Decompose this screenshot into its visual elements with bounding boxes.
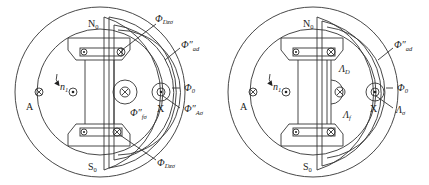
label-phase-x-left: X bbox=[157, 103, 165, 114]
label-phi-f-sigma: Φ″fσ bbox=[130, 107, 148, 120]
label-lambda-sigma: Λσ bbox=[395, 104, 406, 116]
rotor-pole-top bbox=[68, 38, 130, 60]
label-phi-dz-sigma-top: ΦDzσ bbox=[155, 13, 174, 25]
label-south-pole-right: S0 bbox=[303, 161, 312, 173]
label-phi-ad-right: Φ″ad bbox=[394, 39, 413, 52]
label-north-pole-left: N0 bbox=[88, 18, 98, 30]
label-lambda-f: Λf bbox=[342, 109, 352, 121]
label-north-pole-right: N0 bbox=[303, 18, 313, 30]
label-phi-a-sigma: Φ″Aσ bbox=[184, 103, 204, 116]
label-phi-0-left: Φ0 bbox=[184, 82, 196, 94]
right-machine bbox=[228, 7, 398, 177]
label-phase-a-right: A bbox=[240, 101, 248, 112]
label-phi-ad-left: Φ″ad bbox=[181, 39, 200, 52]
stator-outer-circle bbox=[15, 7, 185, 177]
label-speed-right: n1 bbox=[273, 81, 281, 93]
label-lambda-d: ΛD bbox=[338, 63, 350, 75]
label-phase-x-right: X bbox=[370, 103, 378, 114]
flux-diagram: N0 S0 A X n1 ΦDzσ Φ″ad Φ0 Φ″Aσ Φ″fσ ΦDzσ bbox=[0, 0, 429, 185]
label-speed-left: n1 bbox=[60, 81, 68, 93]
label-phi-dz-sigma-bottom: ΦDzσ bbox=[157, 157, 176, 169]
rotation-arrow bbox=[56, 74, 58, 84]
label-south-pole-left: S0 bbox=[88, 161, 97, 173]
label-phase-a-left: A bbox=[26, 101, 34, 112]
label-phi-0-right: Φ0 bbox=[397, 82, 409, 94]
left-machine bbox=[15, 7, 185, 177]
